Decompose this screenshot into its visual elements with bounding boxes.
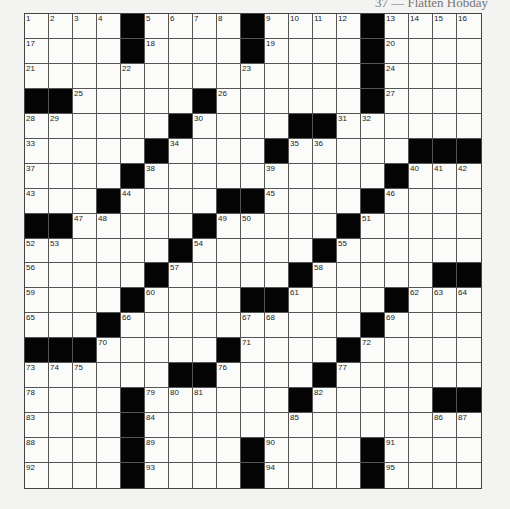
grid-cell[interactable]: 74 — [49, 363, 73, 388]
grid-cell[interactable] — [409, 64, 433, 89]
grid-cell[interactable] — [97, 413, 121, 438]
grid-cell[interactable] — [457, 463, 481, 488]
grid-cell[interactable] — [73, 288, 97, 313]
grid-cell[interactable] — [169, 413, 193, 438]
grid-cell[interactable] — [433, 438, 457, 463]
grid-cell[interactable] — [265, 413, 289, 438]
grid-cell[interactable] — [337, 438, 361, 463]
grid-cell[interactable] — [97, 64, 121, 89]
grid-cell[interactable]: 77 — [337, 363, 361, 388]
grid-cell[interactable] — [361, 263, 385, 288]
grid-cell[interactable] — [289, 313, 313, 338]
grid-cell[interactable] — [97, 463, 121, 488]
grid-cell[interactable] — [457, 338, 481, 363]
grid-cell[interactable] — [169, 164, 193, 189]
grid-cell[interactable] — [193, 263, 217, 288]
grid-cell[interactable]: 24 — [385, 64, 409, 89]
grid-cell[interactable]: 6 — [169, 14, 193, 39]
grid-cell[interactable]: 88 — [25, 438, 49, 463]
grid-cell[interactable] — [97, 39, 121, 64]
grid-cell[interactable]: 65 — [25, 313, 49, 338]
grid-cell[interactable] — [169, 189, 193, 214]
grid-cell[interactable]: 31 — [337, 114, 361, 139]
grid-cell[interactable] — [73, 114, 97, 139]
grid-cell[interactable] — [73, 64, 97, 89]
grid-cell[interactable]: 27 — [385, 89, 409, 114]
grid-cell[interactable]: 35 — [289, 139, 313, 164]
grid-cell[interactable] — [289, 463, 313, 488]
grid-cell[interactable] — [409, 39, 433, 64]
grid-cell[interactable] — [433, 463, 457, 488]
grid-cell[interactable]: 10 — [289, 14, 313, 39]
grid-cell[interactable] — [169, 89, 193, 114]
grid-cell[interactable] — [49, 388, 73, 413]
grid-cell[interactable]: 17 — [25, 39, 49, 64]
grid-cell[interactable] — [217, 438, 241, 463]
grid-cell[interactable] — [385, 363, 409, 388]
grid-cell[interactable]: 78 — [25, 388, 49, 413]
grid-cell[interactable]: 94 — [265, 463, 289, 488]
grid-cell[interactable] — [217, 139, 241, 164]
grid-cell[interactable] — [409, 239, 433, 264]
grid-cell[interactable] — [169, 338, 193, 363]
grid-cell[interactable]: 38 — [145, 164, 169, 189]
grid-cell[interactable] — [145, 239, 169, 264]
grid-cell[interactable]: 63 — [433, 288, 457, 313]
grid-cell[interactable] — [97, 363, 121, 388]
grid-cell[interactable] — [193, 438, 217, 463]
grid-cell[interactable] — [193, 139, 217, 164]
grid-cell[interactable] — [313, 288, 337, 313]
grid-cell[interactable] — [121, 363, 145, 388]
grid-cell[interactable] — [169, 64, 193, 89]
grid-cell[interactable]: 39 — [265, 164, 289, 189]
grid-cell[interactable] — [457, 114, 481, 139]
grid-cell[interactable] — [433, 64, 457, 89]
grid-cell[interactable]: 90 — [265, 438, 289, 463]
grid-cell[interactable] — [409, 313, 433, 338]
grid-cell[interactable] — [217, 263, 241, 288]
grid-cell[interactable]: 54 — [193, 239, 217, 264]
grid-cell[interactable] — [73, 139, 97, 164]
grid-cell[interactable] — [217, 388, 241, 413]
grid-cell[interactable]: 68 — [265, 313, 289, 338]
grid-cell[interactable] — [217, 463, 241, 488]
grid-cell[interactable]: 79 — [145, 388, 169, 413]
grid-cell[interactable] — [337, 413, 361, 438]
grid-cell[interactable] — [49, 64, 73, 89]
grid-cell[interactable]: 36 — [313, 139, 337, 164]
grid-cell[interactable]: 40 — [409, 164, 433, 189]
grid-cell[interactable]: 37 — [25, 164, 49, 189]
grid-cell[interactable]: 47 — [73, 214, 97, 239]
grid-cell[interactable]: 45 — [265, 189, 289, 214]
grid-cell[interactable] — [169, 39, 193, 64]
grid-cell[interactable] — [409, 214, 433, 239]
grid-cell[interactable] — [265, 263, 289, 288]
grid-cell[interactable] — [337, 89, 361, 114]
grid-cell[interactable] — [433, 338, 457, 363]
grid-cell[interactable] — [385, 413, 409, 438]
grid-cell[interactable]: 95 — [385, 463, 409, 488]
grid-cell[interactable]: 73 — [25, 363, 49, 388]
grid-cell[interactable]: 52 — [25, 239, 49, 264]
grid-cell[interactable] — [49, 313, 73, 338]
grid-cell[interactable]: 60 — [145, 288, 169, 313]
grid-cell[interactable] — [73, 164, 97, 189]
grid-cell[interactable] — [193, 288, 217, 313]
grid-cell[interactable] — [289, 64, 313, 89]
grid-cell[interactable]: 14 — [409, 14, 433, 39]
grid-cell[interactable] — [385, 239, 409, 264]
grid-cell[interactable] — [217, 39, 241, 64]
grid-cell[interactable]: 48 — [97, 214, 121, 239]
grid-cell[interactable]: 1 — [25, 14, 49, 39]
grid-cell[interactable]: 4 — [97, 14, 121, 39]
grid-cell[interactable] — [241, 363, 265, 388]
grid-cell[interactable] — [385, 263, 409, 288]
grid-cell[interactable] — [49, 413, 73, 438]
grid-cell[interactable]: 23 — [241, 64, 265, 89]
grid-cell[interactable]: 9 — [265, 14, 289, 39]
grid-cell[interactable] — [49, 263, 73, 288]
grid-cell[interactable] — [385, 388, 409, 413]
grid-cell[interactable]: 80 — [169, 388, 193, 413]
grid-cell[interactable] — [73, 463, 97, 488]
grid-cell[interactable]: 43 — [25, 189, 49, 214]
